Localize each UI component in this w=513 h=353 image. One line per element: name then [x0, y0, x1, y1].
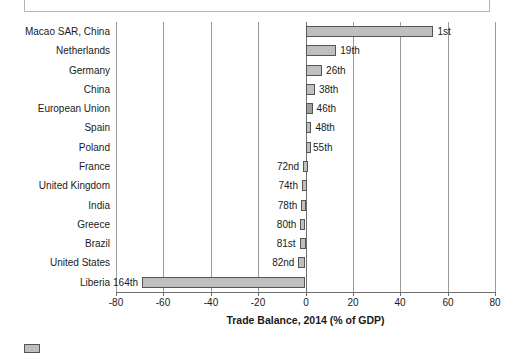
rank-label: 46th	[317, 99, 336, 118]
bar	[300, 219, 305, 230]
rank-label: 81st	[277, 234, 296, 253]
x-tick--20	[258, 292, 259, 296]
category-label: United Kingdom	[0, 176, 110, 195]
x-tick-40	[400, 292, 401, 296]
category-label: Netherlands	[0, 41, 110, 60]
x-tick--40	[211, 292, 212, 296]
chart-row: Poland55th	[0, 138, 513, 157]
legend	[24, 344, 45, 353]
chart-row: Spain48th	[0, 118, 513, 137]
bar	[301, 200, 306, 211]
x-axis-title: Trade Balance, 2014 (% of GDP)	[116, 314, 495, 326]
rank-label: 80th	[277, 215, 296, 234]
bar	[302, 180, 307, 191]
category-label: Spain	[0, 118, 110, 137]
chart-row: Brazil81st	[0, 234, 513, 253]
x-tick-0	[306, 292, 307, 296]
category-label: Greece	[0, 215, 110, 234]
x-tick-label: 80	[475, 297, 513, 308]
x-tick-label: -20	[238, 297, 278, 308]
bar	[303, 161, 308, 172]
x-tick-60	[448, 292, 449, 296]
category-label: China	[0, 80, 110, 99]
chart-row: France72nd	[0, 157, 513, 176]
bar	[306, 65, 323, 76]
x-tick-label: -80	[96, 297, 136, 308]
rank-label: 164th	[113, 273, 138, 292]
x-tick-20	[353, 292, 354, 296]
category-label: United States	[0, 253, 110, 272]
rank-label: 78th	[278, 196, 297, 215]
bar	[306, 26, 434, 37]
bar	[298, 257, 305, 268]
bar	[306, 122, 312, 133]
category-label: Brazil	[0, 234, 110, 253]
legend-swatch	[24, 344, 40, 353]
chart-row: United States82nd	[0, 253, 513, 272]
bar-chart: Trade Balance, 2014 (% of GDP) -80-60-40…	[0, 0, 513, 353]
category-label: Poland	[0, 138, 110, 157]
chart-row: India78th	[0, 196, 513, 215]
rank-label: 55th	[313, 138, 332, 157]
category-label: France	[0, 157, 110, 176]
category-label: Germany	[0, 61, 110, 80]
chart-row: Netherlands19th	[0, 41, 513, 60]
category-label: European Union	[0, 99, 110, 118]
chart-row: United Kingdom74th	[0, 176, 513, 195]
bar	[306, 103, 313, 114]
x-tick-label: 20	[333, 297, 373, 308]
x-tick-label: -40	[191, 297, 231, 308]
bar	[306, 142, 311, 153]
chart-row: Germany26th	[0, 61, 513, 80]
x-tick-80	[495, 292, 496, 296]
x-tick-label: 60	[428, 297, 468, 308]
rank-label: 26th	[326, 61, 345, 80]
bar	[142, 277, 305, 288]
chart-row: European Union46th	[0, 99, 513, 118]
bar	[300, 238, 306, 249]
chart-row: Greece80th	[0, 215, 513, 234]
category-label: India	[0, 196, 110, 215]
bar	[306, 84, 315, 95]
rank-label: 38th	[319, 80, 338, 99]
chart-row: Liberia164th	[0, 273, 513, 292]
x-tick-label: -60	[143, 297, 183, 308]
chart-row: Macao SAR, China1st	[0, 22, 513, 41]
category-label: Macao SAR, China	[0, 22, 110, 41]
x-tick--60	[163, 292, 164, 296]
bar	[306, 45, 337, 56]
x-tick-label: 40	[380, 297, 420, 308]
rank-label: 72nd	[277, 157, 299, 176]
rank-label: 82nd	[272, 253, 294, 272]
rank-label: 1st	[437, 22, 450, 41]
x-tick--80	[116, 292, 117, 296]
rank-label: 48th	[315, 118, 334, 137]
category-label: Liberia	[0, 273, 110, 292]
chart-row: China38th	[0, 80, 513, 99]
x-tick-label: 0	[286, 297, 326, 308]
rank-label: 19th	[340, 41, 359, 60]
rank-label: 74th	[278, 176, 297, 195]
